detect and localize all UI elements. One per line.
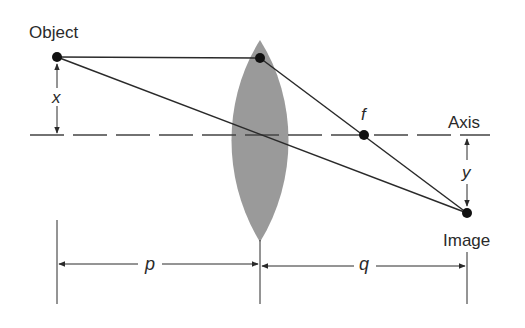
image-label: Image <box>443 231 490 250</box>
lens-ray-point <box>255 53 265 63</box>
object-height-label: x <box>51 88 61 107</box>
focal-point <box>359 130 369 140</box>
object-distance-label: p <box>144 254 155 274</box>
image-distance-label: q <box>359 254 369 274</box>
image-height-label: y <box>461 163 472 182</box>
axis-label: Axis <box>448 113 480 132</box>
ray-parallel <box>57 57 260 58</box>
lens-diagram: x y Object Axis f Image p q <box>0 0 525 328</box>
object-label: Object <box>29 23 78 42</box>
object-point <box>52 52 62 62</box>
image-point <box>462 208 472 218</box>
focal-label: f <box>361 105 368 124</box>
converging-lens <box>232 40 289 242</box>
